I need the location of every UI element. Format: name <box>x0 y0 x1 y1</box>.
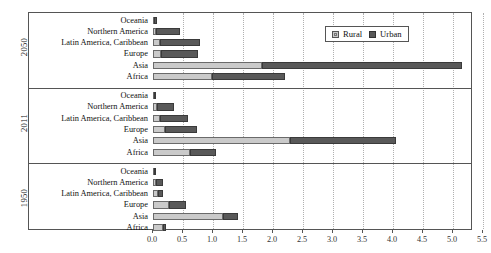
chart-row: Northern America <box>29 177 471 188</box>
x-tick <box>482 230 483 233</box>
bar-segment-rural <box>153 115 160 122</box>
x-tick <box>302 230 303 233</box>
rural-swatch-icon <box>332 31 339 38</box>
bar-segment-urban <box>165 126 197 133</box>
bar-segment-urban <box>157 103 174 110</box>
stacked-bar <box>153 17 157 24</box>
group-separator <box>29 88 471 89</box>
bar-segment-urban <box>190 149 216 156</box>
bar-segment-rural <box>153 39 160 46</box>
stacked-bar <box>153 126 197 133</box>
chart-row: Oceania <box>29 90 471 101</box>
bar-segment-rural <box>153 137 290 144</box>
x-tick <box>422 230 423 233</box>
x-tick-label: 3.0 <box>327 235 337 244</box>
x-tick <box>272 230 273 233</box>
category-label: Latin America, Caribbean <box>61 37 151 48</box>
stacked-bar <box>153 28 180 35</box>
group-label-1950: 1950 <box>19 181 29 215</box>
x-tick-label: 4.0 <box>387 235 397 244</box>
chart-row: Oceania <box>29 166 471 177</box>
category-label: Asia <box>133 211 151 222</box>
stacked-bar <box>153 103 174 110</box>
gridline-5.5 <box>483 13 484 229</box>
chart-row: Latin America, Caribbean <box>29 188 471 199</box>
bar-segment-rural <box>153 201 169 208</box>
category-label: Europe <box>124 48 151 59</box>
stacked-bar <box>153 190 163 197</box>
x-tick-label: 1.0 <box>207 235 217 244</box>
group-separator <box>29 163 471 164</box>
bar-segment-urban <box>156 28 180 35</box>
x-tick <box>332 230 333 233</box>
bar-segment-urban <box>158 190 162 197</box>
x-tick <box>452 230 453 233</box>
stacked-bar <box>153 115 188 122</box>
bar-segment-urban <box>161 50 198 57</box>
stacked-bar <box>153 62 462 69</box>
stacked-bar <box>153 39 200 46</box>
bar-segment-urban <box>223 213 237 220</box>
x-tick-label: 4.5 <box>417 235 427 244</box>
chart-row: Northern America <box>29 101 471 112</box>
stacked-bar <box>153 201 186 208</box>
bar-segment-urban <box>154 92 156 99</box>
legend-item-rural: Rural <box>332 29 362 39</box>
chart-row: Asia <box>29 60 471 71</box>
x-tick-label: 0.5 <box>177 235 187 244</box>
category-label: Asia <box>133 135 151 146</box>
stacked-bar <box>153 137 396 144</box>
chart-legend: Rural Urban <box>325 26 409 42</box>
bar-segment-urban <box>156 179 163 186</box>
chart-row: Africa <box>29 71 471 82</box>
bar-segment-rural <box>153 50 161 57</box>
x-tick <box>392 230 393 233</box>
stacked-bar <box>153 213 238 220</box>
category-label: Africa <box>127 71 151 82</box>
group-label-2050: 2050 <box>19 30 29 64</box>
chart-row: Africa <box>29 147 471 158</box>
chart-row: Oceania <box>29 15 471 26</box>
plot-area: 2050OceaniaNorthern AmericaLatin America… <box>28 12 472 230</box>
bar-segment-urban <box>154 168 156 175</box>
stacked-bar <box>153 50 198 57</box>
category-label: Europe <box>124 199 151 210</box>
bar-segment-urban <box>154 17 157 24</box>
x-tick <box>212 230 213 233</box>
chart-row: Latin America, Caribbean <box>29 113 471 124</box>
x-tick-label: 1.5 <box>237 235 247 244</box>
chart-row: Asia <box>29 211 471 222</box>
bar-segment-urban <box>160 115 188 122</box>
x-axis: 0.00.51.01.52.02.53.03.54.04.55.05.5 <box>28 230 472 252</box>
x-tick <box>362 230 363 233</box>
category-label: Oceania <box>121 15 151 26</box>
stacked-bar-chart: 2050OceaniaNorthern AmericaLatin America… <box>0 0 491 253</box>
bar-segment-urban <box>262 62 462 69</box>
bar-segment-urban <box>212 73 285 80</box>
bar-segment-rural <box>153 213 223 220</box>
x-tick-label: 5.0 <box>447 235 457 244</box>
chart-row: Europe <box>29 124 471 135</box>
urban-swatch-icon <box>369 31 376 38</box>
group-label-2011: 2011 <box>19 106 29 140</box>
x-tick-label: 2.5 <box>297 235 307 244</box>
stacked-bar <box>153 149 216 156</box>
stacked-bar <box>153 168 154 175</box>
category-label: Latin America, Caribbean <box>61 188 151 199</box>
chart-row: Asia <box>29 135 471 146</box>
category-label: Northern America <box>87 26 151 37</box>
x-tick-label: 0.0 <box>147 235 157 244</box>
bar-segment-urban <box>169 201 186 208</box>
legend-item-urban: Urban <box>369 29 401 39</box>
category-label: Oceania <box>121 90 151 101</box>
chart-row: Europe <box>29 199 471 210</box>
x-tick <box>242 230 243 233</box>
x-tick <box>182 230 183 233</box>
x-tick <box>152 230 153 233</box>
category-label: Latin America, Caribbean <box>61 113 151 124</box>
bar-segment-rural <box>153 126 165 133</box>
bar-segment-rural <box>153 73 212 80</box>
category-label: Africa <box>127 147 151 158</box>
chart-row: Europe <box>29 48 471 59</box>
category-label: Asia <box>133 60 151 71</box>
